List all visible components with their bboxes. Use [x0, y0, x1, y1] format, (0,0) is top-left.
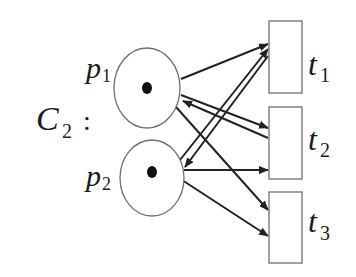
transition-t3: t 3	[269, 192, 330, 263]
arc-p1-t2	[181, 95, 268, 128]
transition-t2-box	[269, 107, 302, 179]
transition-t2-label: t	[308, 121, 318, 157]
transition-t3-label: t	[308, 203, 318, 239]
token-icon	[147, 166, 157, 178]
place-p1-subscript: 1	[102, 66, 111, 86]
net-name-label: C 2 :	[36, 100, 91, 142]
transition-t3-subscript: 3	[320, 222, 330, 244]
place-p2: p 2	[84, 140, 184, 216]
transition-t2: t 2	[269, 107, 330, 179]
transition-t3-box	[269, 192, 302, 263]
arc-p2-t3	[182, 180, 268, 236]
place-p1-label: p	[84, 51, 101, 84]
arcs	[176, 44, 268, 236]
transition-t2-subscript: 2	[320, 139, 330, 161]
place-p1: p 1	[84, 48, 180, 128]
transition-t1-label: t	[308, 46, 318, 82]
net-name-separator: :	[83, 105, 91, 136]
place-p2-label: p	[84, 159, 101, 192]
transition-t1-subscript: 1	[320, 64, 330, 86]
net-name: C	[36, 100, 59, 137]
net-name-subscript: 2	[62, 120, 72, 142]
arc-t2-p1	[183, 101, 268, 138]
token-icon	[142, 82, 152, 94]
place-p2-subscript: 2	[102, 174, 111, 194]
transition-t1-box	[269, 21, 302, 93]
petri-net-diagram: C 2 : p 1 p 2 t 1 t 2	[0, 0, 356, 277]
transition-t1: t 1	[269, 21, 330, 93]
